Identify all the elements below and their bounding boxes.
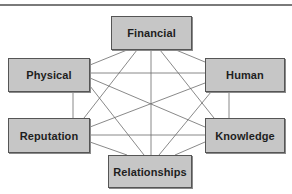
node-reputation: Reputation — [8, 118, 90, 153]
node-label-reputation: Reputation — [20, 130, 78, 142]
edge-financial-reputation — [84, 50, 137, 118]
node-label-financial: Financial — [127, 27, 176, 39]
node-label-human: Human — [226, 69, 264, 81]
edge-knowledge-relationships — [175, 142, 205, 155]
node-relationships: Relationships — [108, 155, 192, 188]
edge-financial-human — [176, 50, 205, 62]
node-label-relationships: Relationships — [113, 166, 186, 178]
node-label-knowledge: Knowledge — [215, 130, 275, 142]
node-financial: Financial — [111, 16, 192, 50]
node-label-physical: Physical — [26, 69, 71, 81]
edge-financial-physical — [90, 50, 127, 65]
node-physical: Physical — [8, 58, 90, 92]
node-knowledge: Knowledge — [205, 118, 285, 153]
edge-human-relationships — [159, 92, 211, 155]
node-human: Human — [205, 58, 285, 92]
edge-reputation-relationships — [90, 142, 127, 155]
